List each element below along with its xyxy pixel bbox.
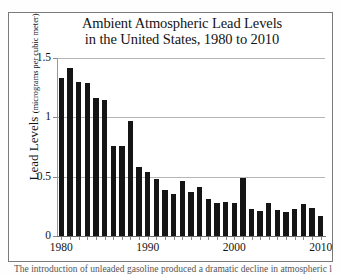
- bar-2009: [309, 208, 314, 236]
- bar-1992: [162, 190, 167, 236]
- bar-1990: [145, 172, 150, 236]
- bar-2003: [257, 211, 262, 236]
- bar-2004: [266, 203, 271, 236]
- bar-1985: [102, 100, 107, 236]
- chart-title-line1: Ambient Atmospheric Lead Levels: [34, 15, 330, 31]
- bar-1998: [214, 203, 219, 236]
- bar-2005: [275, 210, 280, 236]
- bar-1994: [180, 181, 185, 236]
- bar-1991: [154, 179, 159, 236]
- bar-2006: [283, 212, 288, 236]
- gridline-1.5: [57, 58, 325, 59]
- chart-title: Ambient Atmospheric Lead Levels in the U…: [34, 15, 330, 47]
- bar-2000: [232, 203, 237, 236]
- bar-1981: [67, 68, 72, 237]
- chart-title-line2: in the United States, 1980 to 2010: [34, 31, 330, 47]
- y-axis-title: Lead Levels (micrograms per cubic meter): [24, 0, 42, 202]
- bar-1999: [223, 202, 228, 236]
- figure-caption: The introduction of unleaded gasoline pr…: [14, 264, 332, 274]
- bar-1989: [136, 167, 141, 236]
- bar-1982: [76, 82, 81, 236]
- bar-1986: [111, 146, 116, 236]
- bar-2002: [249, 209, 254, 236]
- bar-1983: [85, 83, 90, 236]
- y-axis-title-units: (micrograms per cubic meter): [31, 14, 40, 114]
- bar-1987: [119, 146, 124, 236]
- bar-2007: [292, 209, 297, 236]
- bar-2001: [240, 178, 245, 236]
- bar-1993: [171, 194, 176, 236]
- bar-1997: [206, 199, 211, 236]
- y-axis-line: [57, 58, 58, 237]
- bar-2008: [301, 204, 306, 236]
- figure-container: Ambient Atmospheric Lead Levels in the U…: [0, 0, 340, 274]
- y-axis-title-main: Lead Levels: [26, 113, 41, 180]
- plot-area: [57, 58, 325, 236]
- bar-2010: [318, 216, 323, 236]
- x-axis-line: [57, 236, 326, 237]
- bar-1980: [59, 78, 64, 236]
- bar-1988: [128, 121, 133, 236]
- bar-1996: [197, 187, 202, 236]
- bar-1984: [93, 98, 98, 236]
- bar-1995: [188, 192, 193, 236]
